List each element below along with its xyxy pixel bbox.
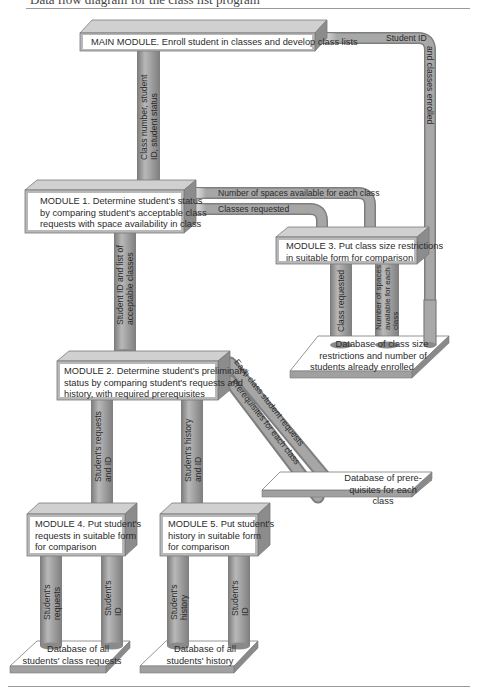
db-requests-label: Database of all students' class requests <box>16 644 128 667</box>
db-prereq-label: Database of prere- quisites for each cla… <box>338 473 428 508</box>
flow-m3-spaces-label: Number of spaces available for each clas… <box>375 265 401 330</box>
flow-m5-id-label: Student's ID <box>230 580 250 616</box>
flow-m1-to-m2-label: Student ID and list of acceptable classe… <box>115 245 135 325</box>
main-module-label: MAIN MODULE. Enroll student in classes a… <box>91 37 358 49</box>
flow-classes-enrolled-label: and classes enrolled <box>425 46 435 124</box>
module-2-label: MODULE 2. Determine student's preliminar… <box>64 366 247 401</box>
db-history-label: Database of all students' history <box>146 644 254 667</box>
flow-main-to-m1-label: Class number, student ID, student status <box>139 74 159 160</box>
flow-student-id-label: Student ID <box>386 33 427 43</box>
flow-m2-to-m5-label: Student's history and ID <box>183 419 203 482</box>
module-5-label: MODULE 5. Put student's history in suita… <box>168 519 274 554</box>
module-3-label: MODULE 3. Put class size restrictions in… <box>286 241 443 264</box>
flow-m3-class-requested-label: Class requested <box>336 270 346 332</box>
flow-m4-requests-label: Student's requests <box>42 584 62 620</box>
flow-classes-requested-label: Classes requested <box>218 204 289 214</box>
flow-spaces-available-label: Number of spaces available for each clas… <box>218 188 379 198</box>
module-1-label: MODULE 1. Determine student's status by … <box>40 196 207 231</box>
db-class-size-label: Database of class size restrictions and … <box>300 339 440 374</box>
module-4-label: MODULE 4. Put student's requests in suit… <box>35 519 141 554</box>
flow-m4-id-label: Student's ID <box>103 580 123 616</box>
flow-m5-history-label: Student's history <box>169 584 189 620</box>
flow-m2-to-m4-label: Student's requests and ID <box>93 411 113 482</box>
